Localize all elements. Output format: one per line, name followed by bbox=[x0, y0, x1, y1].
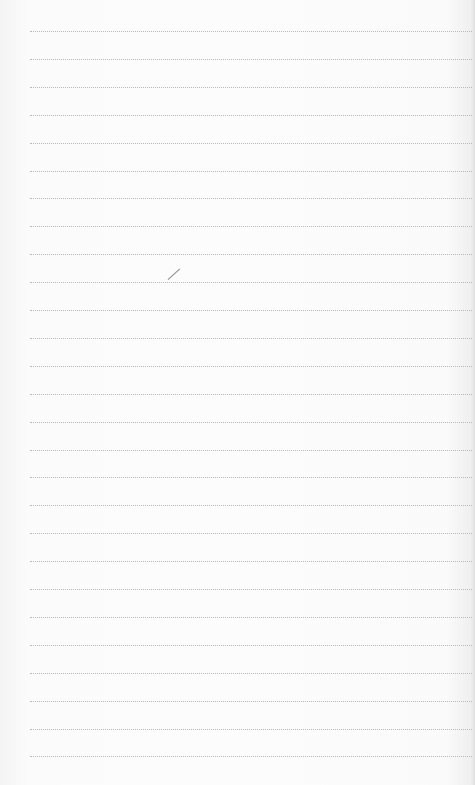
notepad-page bbox=[0, 0, 475, 785]
ruled-line bbox=[30, 645, 472, 646]
ruled-line bbox=[30, 561, 472, 562]
ruled-line bbox=[30, 338, 472, 339]
ruled-line bbox=[30, 31, 472, 32]
ruled-line bbox=[30, 282, 472, 283]
ruled-line bbox=[30, 701, 472, 702]
ruled-line bbox=[30, 617, 472, 618]
ruled-line bbox=[30, 673, 472, 674]
ruled-line bbox=[30, 226, 472, 227]
ruled-line bbox=[30, 366, 472, 367]
ruled-line bbox=[30, 756, 472, 757]
ruled-line bbox=[30, 254, 472, 255]
ruled-line bbox=[30, 394, 472, 395]
page-edge-shadow bbox=[471, 0, 475, 785]
ruled-line bbox=[30, 87, 472, 88]
ruled-line bbox=[30, 59, 472, 60]
pen-stroke-mark bbox=[168, 268, 181, 280]
ruled-line bbox=[30, 477, 472, 478]
ruled-line bbox=[30, 422, 472, 423]
ruled-line bbox=[30, 198, 472, 199]
ruled-line bbox=[30, 310, 472, 311]
ruled-line bbox=[30, 589, 472, 590]
ruled-line bbox=[30, 533, 472, 534]
ruled-line bbox=[30, 505, 472, 506]
ruled-line bbox=[30, 143, 472, 144]
ruled-line bbox=[30, 115, 472, 116]
ruled-line bbox=[30, 729, 472, 730]
ruled-line bbox=[30, 450, 472, 451]
ruled-line bbox=[30, 171, 472, 172]
